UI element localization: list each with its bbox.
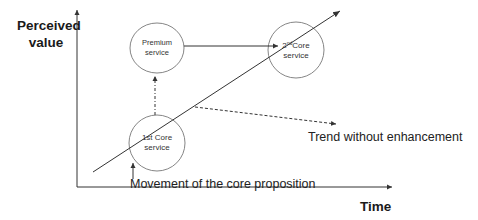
core2-label-line2: service bbox=[274, 51, 318, 61]
x-axis-label: Time bbox=[360, 200, 391, 214]
premium-service-label: Premium service bbox=[132, 38, 182, 58]
core1-label-line2: service bbox=[132, 143, 182, 153]
y-axis-label-line1: Perceived bbox=[17, 19, 75, 33]
y-axis-label: Perceived value bbox=[17, 19, 75, 49]
core-movement-arrow bbox=[93, 11, 340, 172]
trend-dashed-arrow bbox=[195, 107, 336, 124]
premium-label-line1: Premium bbox=[132, 38, 182, 48]
core2-label-line1: 2ndCore bbox=[274, 38, 318, 51]
trend-without-enhancement-label: Trend without enhancement bbox=[308, 131, 463, 144]
y-axis-label-line2: value bbox=[17, 36, 75, 50]
movement-of-core-proposition-label: Movement of the core proposition bbox=[130, 178, 316, 191]
second-core-service-label: 2ndCore service bbox=[274, 38, 318, 61]
core2-label-rest: Core bbox=[292, 41, 309, 50]
premium-label-line2: service bbox=[132, 48, 182, 58]
core1-label-line1: 1st Core bbox=[132, 133, 182, 143]
first-core-service-label: 1st Core service bbox=[132, 133, 182, 153]
